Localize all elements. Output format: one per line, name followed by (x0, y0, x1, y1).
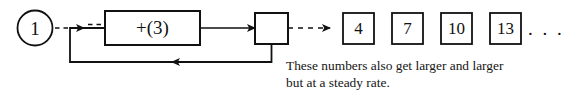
diagram-caption: These numbers also get larger and larger… (286, 57, 564, 91)
output-value: 13 (497, 19, 514, 38)
operator-label: +(3) (136, 17, 169, 39)
output-value: 4 (354, 19, 363, 38)
output-value: 7 (403, 19, 412, 38)
accumulator-box (255, 13, 288, 44)
sequence-continuation-ellipsis: . . . (528, 18, 564, 39)
output-value: 10 (448, 19, 465, 38)
feedback-loop-diagram: 1 +(3) 4 7 10 13 . . . These numbers als… (0, 0, 566, 106)
seed-value: 1 (30, 18, 40, 39)
